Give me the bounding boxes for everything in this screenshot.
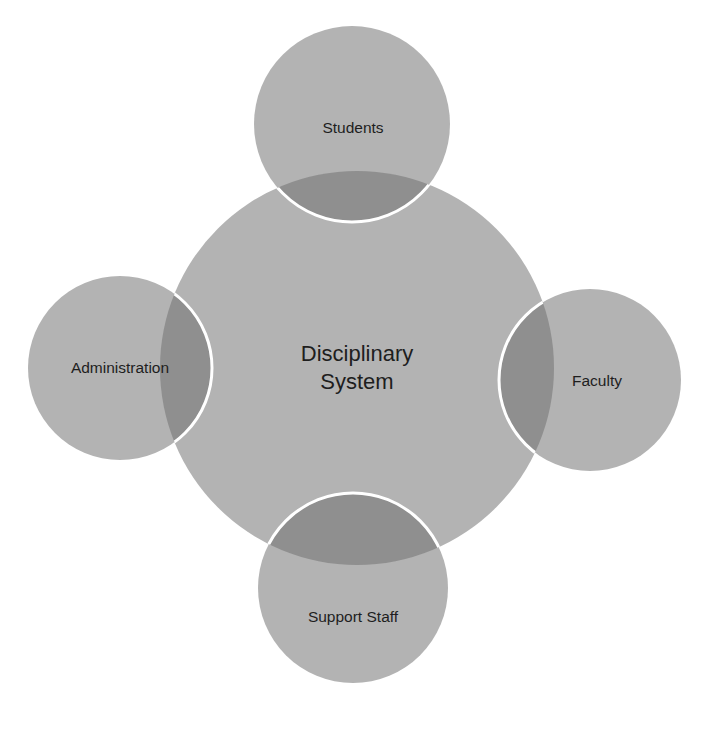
faculty-label: Faculty (572, 372, 622, 389)
center-label-line2: System (320, 369, 393, 394)
students-label: Students (322, 119, 383, 136)
center-label-line1: Disciplinary (301, 341, 413, 366)
administration-label: Administration (71, 359, 169, 376)
diagram-canvas: Disciplinary System Students Administrat… (0, 0, 704, 736)
support-staff-label: Support Staff (308, 608, 399, 625)
